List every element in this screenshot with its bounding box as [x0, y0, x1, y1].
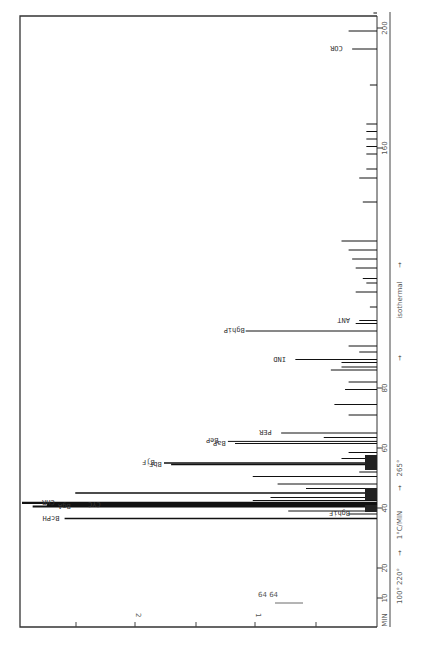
time-tick-label: 80 [381, 384, 389, 393]
attenuation-label: 64 64 [258, 591, 279, 599]
peak-label-cor: COR [329, 44, 342, 52]
peak-label-bghip: BghiP [224, 326, 245, 334]
peak-cluster [365, 455, 377, 470]
time-tick-label: 20 [381, 564, 389, 573]
intensity-label-2: 2 [134, 613, 142, 617]
peak-cluster [365, 488, 377, 500]
peak-label-cyc: CYC [88, 500, 101, 508]
chromatogram: 21 BcPHBghiFBgACYCCHRBbFBjFBaPBePPERINDB… [0, 0, 427, 647]
peak-label-bep: BeP [206, 436, 219, 444]
temperature-annotation: 1°C/MIN [396, 511, 404, 540]
intensity-label-1: 1 [254, 613, 262, 617]
time-axis-label: MIN [381, 613, 389, 626]
program-arrow-icon: → [396, 550, 404, 556]
peak-label-bcph: BcPH [43, 514, 60, 522]
peak-label-bga: BgA [57, 502, 70, 510]
time-tick-label: 200 [381, 21, 389, 34]
time-tick-label: 10 [381, 594, 389, 603]
program-arrow-icon: → [396, 262, 404, 268]
time-tick-label: 160 [381, 141, 389, 154]
peak-label-per: PER [258, 428, 271, 436]
plot-frame: 21 [20, 12, 390, 627]
peaks [22, 13, 377, 519]
peak-cluster [365, 505, 377, 512]
time-axis: 1020406080160200MIN [377, 21, 389, 626]
temperature-annotation: 100° 220° [396, 568, 404, 604]
peak-label-chr: CHR [41, 498, 54, 506]
time-tick-label: 40 [381, 504, 389, 513]
program-arrow-icon: → [396, 355, 404, 361]
peak-labels: BcPHBghiFBgACYCCHRBbFBjFBaPBePPERINDBghi… [41, 44, 350, 522]
temperature-annotation: isothermal [396, 281, 404, 318]
peak-label-ant: ANT [336, 316, 349, 324]
frame-border [20, 16, 377, 627]
peak-label-bjf: BjF [142, 458, 155, 466]
peak-label-bghif: BghiF [329, 509, 350, 517]
time-tick-label: 60 [381, 444, 389, 453]
program-arrow-icon: → [396, 485, 404, 491]
temperature-annotation: 265° [396, 460, 404, 477]
peak-label-ind: IND [273, 355, 286, 363]
